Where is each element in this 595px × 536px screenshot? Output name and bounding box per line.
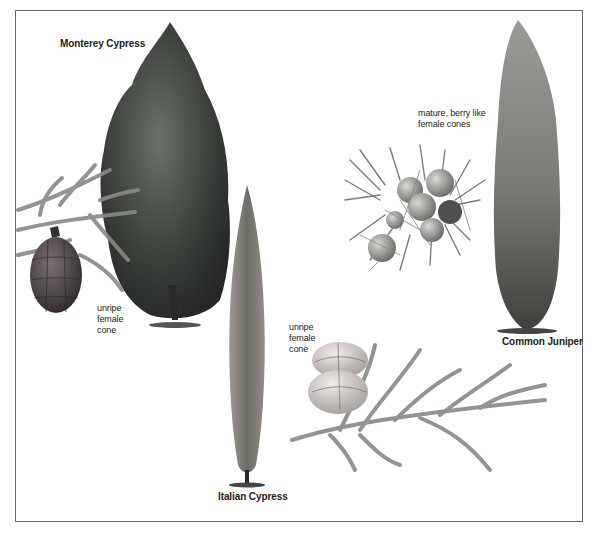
label-italian-cypress: Italian Cypress — [218, 491, 288, 502]
label-common-juniper: Common Juniper — [502, 336, 583, 347]
monterey-cone — [30, 226, 82, 313]
label-monterey-cone-note: unripe female cone — [97, 303, 123, 336]
illustration-canvas — [0, 0, 595, 536]
label-juniper-berries-note: mature, berry like female cones — [418, 108, 486, 130]
italian-cypress-tree — [229, 185, 265, 488]
italian-cypress-cone — [308, 342, 368, 414]
label-monterey-cypress: Monterey Cypress — [60, 38, 145, 49]
juniper-berry-cluster — [345, 145, 485, 270]
label-italian-cypress-cone-note: unripe female cone — [289, 322, 315, 355]
monterey-cypress-tree — [101, 22, 230, 328]
common-juniper-tree — [494, 20, 560, 334]
